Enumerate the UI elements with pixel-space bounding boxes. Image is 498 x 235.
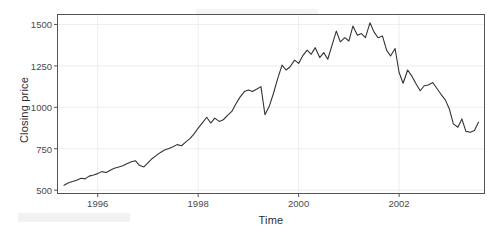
x-tick-label: 1998 <box>188 198 209 209</box>
x-tick-label: 2002 <box>389 198 410 209</box>
y-tick-label: 500 <box>18 185 52 196</box>
scan-artifact-bottom <box>18 213 130 222</box>
y-tick-label: 1500 <box>18 19 52 30</box>
line-chart-plot <box>0 0 498 235</box>
chart-figure: 500750100012501500 1996199820002002 Clos… <box>0 0 498 235</box>
y-axis-title: Closing price <box>18 50 30 170</box>
x-tick-label: 2000 <box>288 198 309 209</box>
x-tick-label: 1996 <box>87 198 108 209</box>
